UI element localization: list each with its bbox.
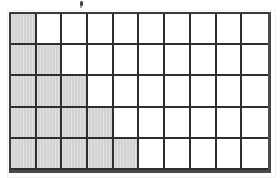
grid-cell-empty[interactable] [191,108,217,139]
grid-row [11,14,268,45]
grid-cell-empty[interactable] [191,14,217,45]
grid-cell-empty[interactable] [242,76,268,107]
grid-cell-shaded[interactable] [114,139,140,170]
grid-cell-empty[interactable] [114,76,140,107]
grid-cell-empty[interactable] [165,45,191,76]
grid-cell-empty[interactable] [165,76,191,107]
grid-cell-shaded[interactable] [62,76,88,107]
grid-cell-shaded[interactable] [11,14,37,45]
grid-cell-shaded[interactable] [11,108,37,139]
grid-cell-shaded[interactable] [11,45,37,76]
grid-row [11,139,268,170]
grid-cell-empty[interactable] [139,139,165,170]
grid-cell-shaded[interactable] [88,108,114,139]
grid-cell-empty[interactable] [88,45,114,76]
grid-body [11,14,268,170]
grid-cell-empty[interactable] [217,76,243,107]
grid-cell-empty[interactable] [165,108,191,139]
grid-cell-shaded[interactable] [11,76,37,107]
grid-cell-empty[interactable] [191,139,217,170]
grid-cell-empty[interactable] [88,14,114,45]
grid-cell-shaded[interactable] [37,108,63,139]
grid-cell-empty[interactable] [139,76,165,107]
grid-cell-empty[interactable] [139,14,165,45]
grid-cell-empty[interactable] [114,45,140,76]
grid-cell-shaded[interactable] [62,139,88,170]
figure-root [0,0,280,178]
grid-cell-shaded[interactable] [88,139,114,170]
grid-cell-empty[interactable] [37,14,63,45]
grid-cell-shaded[interactable] [11,139,37,170]
grid-cell-empty[interactable] [62,14,88,45]
grid-cell-empty[interactable] [139,45,165,76]
grid-cell-shaded[interactable] [37,76,63,107]
grid-cell-empty[interactable] [191,45,217,76]
grid-cell-empty[interactable] [165,139,191,170]
grid-cell-empty[interactable] [217,108,243,139]
grid-cell-empty[interactable] [217,139,243,170]
grid-cell-empty[interactable] [191,76,217,107]
grid-container [9,12,271,173]
grid-cell-empty[interactable] [88,76,114,107]
grid-row [11,45,268,76]
grid-cell-shaded[interactable] [62,108,88,139]
grid-cell-empty[interactable] [217,45,243,76]
grid-cell-empty[interactable] [165,14,191,45]
grid-row [11,76,268,107]
grid-cell-empty[interactable] [114,14,140,45]
grid-cell-shaded[interactable] [37,139,63,170]
shaded-grid-table [9,12,271,173]
grid-cell-empty[interactable] [242,108,268,139]
grid-row [11,108,268,139]
ink-speck-artifact [80,1,83,6]
grid-cell-empty[interactable] [62,45,88,76]
grid-cell-empty[interactable] [242,139,268,170]
grid-cell-empty[interactable] [114,108,140,139]
grid-cell-shaded[interactable] [37,45,63,76]
grid-cell-empty[interactable] [139,108,165,139]
grid-cell-empty[interactable] [242,45,268,76]
grid-cell-empty[interactable] [217,14,243,45]
grid-cell-empty[interactable] [242,14,268,45]
